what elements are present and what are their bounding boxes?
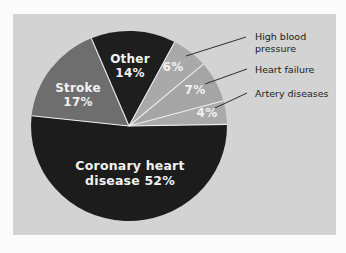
- label-artery-value: 4%: [192, 106, 222, 120]
- label-other-name: Other: [100, 52, 160, 66]
- label-stroke-name: Stroke: [48, 81, 108, 95]
- label-other-value: 14%: [100, 66, 160, 80]
- callout-hbp-line1: High blood: [255, 31, 306, 43]
- label-hf-value: 7%: [180, 83, 210, 97]
- label-coronary-value: disease 52%: [70, 173, 190, 188]
- callout-hf: Heart failure: [255, 64, 314, 76]
- label-coronary-name: Coronary heart: [70, 158, 190, 173]
- label-hbp-value: 6%: [158, 60, 188, 74]
- label-coronary: Coronary heart disease 52%: [70, 158, 190, 188]
- callout-line-hbp: [186, 37, 246, 56]
- label-stroke: Stroke 17%: [48, 81, 108, 109]
- callout-artery: Artery diseases: [255, 88, 329, 100]
- callout-hbp-line2: pressure: [255, 43, 306, 55]
- label-stroke-value: 17%: [48, 95, 108, 109]
- callout-hbp: High blood pressure: [255, 31, 306, 55]
- label-other: Other 14%: [100, 52, 160, 80]
